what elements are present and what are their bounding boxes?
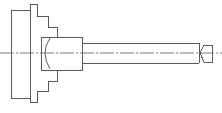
collet-arc <box>45 38 50 69</box>
technical-drawing <box>0 0 222 113</box>
drawing-svg <box>0 0 222 113</box>
collet-housing <box>41 37 82 70</box>
tailstock-center <box>200 45 212 62</box>
chuck-flange <box>11 10 31 98</box>
